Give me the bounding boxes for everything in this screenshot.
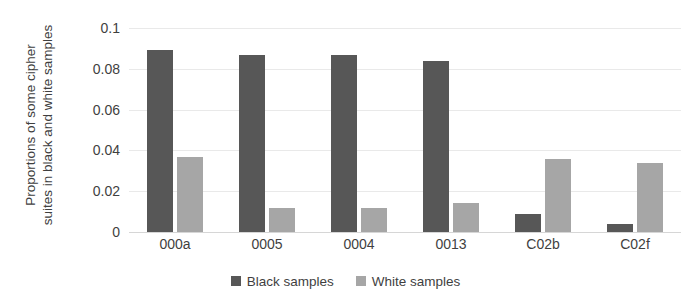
y-axis-tick-label: 0	[112, 224, 120, 240]
x-axis-tick-label-0004: 0004	[343, 236, 374, 252]
legend-label: Black samples	[247, 274, 334, 289]
bar-C02f-white	[637, 163, 663, 232]
x-axis-tick-label-000a: 000a	[159, 236, 190, 252]
bar-group	[129, 28, 221, 232]
legend-swatch-icon	[356, 276, 366, 286]
bar-C02f-black	[607, 224, 633, 232]
bar-0005-black	[239, 55, 265, 232]
bar-000a-black	[147, 50, 173, 232]
bar-C02b-black	[515, 214, 541, 232]
bar-C02b-white	[545, 159, 571, 232]
bar-0005-white	[269, 208, 295, 232]
y-axis-tick-label: 0.04	[93, 142, 120, 158]
x-axis-line	[129, 232, 681, 233]
legend-item: White samples	[356, 274, 461, 289]
y-axis-title: Proportions of some cipher suites in bla…	[0, 0, 78, 250]
bar-0013-white	[453, 203, 479, 232]
y-axis-tick-labels: 00.020.040.060.080.1	[76, 0, 124, 250]
x-axis-tick-label-C02f: C02f	[620, 236, 650, 252]
x-axis-tick-labels: 000a000500040013C02bC02f	[129, 236, 681, 260]
bar-group	[313, 28, 405, 232]
bar-group	[589, 28, 681, 232]
bar-group	[221, 28, 313, 232]
y-axis-tick-label: 0.06	[93, 102, 120, 118]
legend-item: Black samples	[231, 274, 334, 289]
bar-000a-white	[177, 157, 203, 232]
x-axis-tick-label-C02b: C02b	[526, 236, 559, 252]
plot-area	[129, 28, 681, 232]
bar-chart: Proportions of some cipher suites in bla…	[0, 0, 691, 308]
bar-group	[497, 28, 589, 232]
legend-label: White samples	[372, 274, 461, 289]
y-axis-tick-label: 0.02	[93, 183, 120, 199]
x-axis-tick-label-0013: 0013	[435, 236, 466, 252]
y-axis-tick-label: 0.08	[93, 61, 120, 77]
y-axis-tick-label: 0.1	[101, 20, 120, 36]
y-axis-title-line-2: suites in black and white samples	[39, 25, 56, 225]
bar-0013-black	[423, 61, 449, 232]
bar-group	[405, 28, 497, 232]
bar-0004-black	[331, 55, 357, 232]
bar-0004-white	[361, 208, 387, 232]
y-axis-title-line-1: Proportions of some cipher	[22, 25, 39, 225]
chart-legend: Black samplesWhite samples	[0, 268, 691, 294]
legend-swatch-icon	[231, 276, 241, 286]
x-axis-tick-label-0005: 0005	[251, 236, 282, 252]
